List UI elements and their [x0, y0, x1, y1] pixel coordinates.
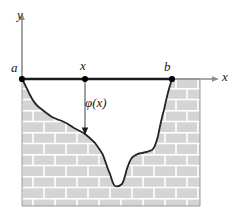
figure-container: y x a b x φ(x) — [0, 0, 239, 218]
y-axis-label: y — [17, 8, 23, 21]
point-b-label: b — [164, 60, 171, 73]
point-a-dot — [19, 76, 25, 82]
x-axis-arrowhead — [212, 76, 219, 82]
x-axis-label: x — [222, 70, 228, 83]
phi-function-label: φ(x) — [85, 96, 107, 109]
point-x-dot — [82, 76, 88, 82]
point-a-label: a — [11, 61, 18, 74]
point-b-dot — [169, 76, 175, 82]
diagram-svg — [0, 0, 239, 218]
point-x-label: x — [80, 59, 86, 72]
brick-hatch-fill — [22, 79, 200, 206]
y-axis — [19, 13, 25, 80]
ground-region — [22, 79, 200, 206]
